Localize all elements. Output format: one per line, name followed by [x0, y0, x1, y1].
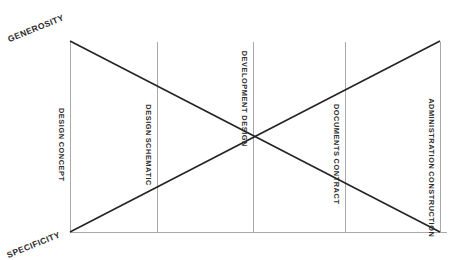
- phase-label-line-2: DESIGN: [145, 104, 152, 136]
- phase-label-line-1: CONCEPT: [58, 142, 65, 182]
- phase-label-construction-administration: CONSTRUCTION ADMINISTRATION: [428, 98, 435, 237]
- phase-label-line-1: DESIGN: [241, 115, 248, 147]
- phase-label-contract-documents: CONTRACT DOCUMENTS: [333, 104, 340, 204]
- design-phase-diagram: GENEROSITY SPECIFICITY CONCEPT DESIGN SC…: [0, 0, 462, 260]
- diagram-canvas: [0, 0, 462, 260]
- phase-label-line-1: CONTRACT: [333, 159, 340, 205]
- phase-label-line-2: DESIGN: [58, 108, 65, 140]
- phase-label-concept-design: CONCEPT DESIGN: [58, 108, 65, 182]
- phase-label-line-2: ADMINISTRATION: [428, 98, 435, 169]
- phase-label-line-2: DOCUMENTS: [333, 104, 340, 157]
- phase-label-line-1: CONSTRUCTION: [428, 171, 435, 237]
- phase-label-line-2: DEVELOPMENT: [241, 51, 248, 113]
- phase-label-design-development: DESIGN DEVELOPMENT: [241, 51, 248, 147]
- phase-label-line-1: SCHEMATIC: [145, 138, 152, 186]
- phase-label-schematic-design: SCHEMATIC DESIGN: [145, 104, 152, 186]
